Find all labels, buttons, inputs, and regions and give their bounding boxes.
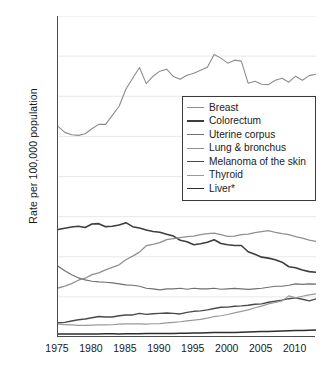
legend-label: Colorectum	[209, 115, 261, 127]
y-axis-title: Rate per 100,000 population	[27, 61, 39, 251]
series-line	[58, 294, 316, 325]
legend-item: Thyroid	[187, 169, 310, 183]
legend-item: Breast	[187, 101, 310, 115]
legend-item: Melanoma of the skin	[187, 155, 310, 169]
legend-swatch-icon	[187, 188, 204, 189]
legend-swatch-icon	[187, 161, 204, 162]
legend-item: Uterine corpus	[187, 128, 310, 142]
chart-legend: BreastColorectumUterine corpusLung & bro…	[182, 96, 316, 201]
chart-figure: Rate per 100,000 population 020406080100…	[0, 0, 335, 379]
series-line	[58, 266, 316, 290]
legend-swatch-icon	[187, 134, 204, 135]
series-line	[58, 330, 316, 334]
legend-swatch-icon	[187, 120, 204, 122]
legend-label: Lung & bronchus	[209, 142, 286, 154]
series-line	[58, 231, 316, 288]
legend-label: Breast	[209, 102, 238, 114]
legend-swatch-icon	[187, 148, 204, 149]
series-line	[58, 223, 316, 273]
legend-item: Lung & bronchus	[187, 142, 310, 156]
x-axis-tick-label: 2010	[275, 343, 315, 354]
legend-label: Melanoma of the skin	[209, 156, 306, 168]
legend-label: Thyroid	[209, 169, 243, 181]
legend-item: Liver*	[187, 182, 310, 196]
legend-label: Uterine corpus	[209, 129, 275, 141]
legend-swatch-icon	[187, 107, 204, 108]
legend-swatch-icon	[187, 175, 204, 176]
legend-label: Liver*	[209, 183, 235, 195]
legend-item: Colorectum	[187, 115, 310, 129]
